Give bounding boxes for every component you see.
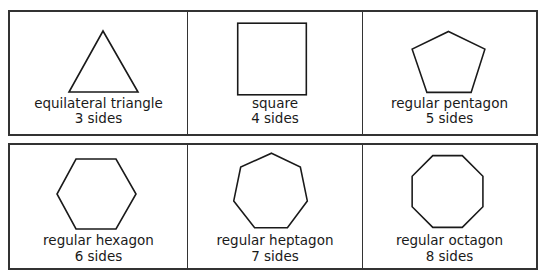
pentagon-shape — [363, 12, 536, 104]
shape-name: square — [188, 96, 362, 111]
shapes-row-2: regular hexagon 6 sides regular heptagon… — [8, 143, 538, 270]
shape-name: equilateral triangle — [10, 96, 187, 111]
shape-name: regular pentagon — [363, 96, 536, 111]
heptagon-shape — [188, 145, 362, 237]
shapes-row-1: equilateral triangle 3 sides square 4 si… — [8, 10, 538, 136]
shape-name: regular hexagon — [10, 233, 187, 248]
shape-sides: 5 sides — [363, 111, 536, 126]
triangle-shape — [10, 12, 187, 104]
cell-heptagon: regular heptagon 7 sides — [187, 145, 362, 268]
square-shape — [188, 12, 362, 104]
cell-triangle: equilateral triangle 3 sides — [10, 12, 187, 134]
octagon-shape — [363, 145, 536, 237]
shape-sides: 3 sides — [10, 111, 187, 126]
shape-name: regular heptagon — [188, 233, 362, 248]
shape-sides: 4 sides — [188, 111, 362, 126]
hexagon-shape — [10, 145, 187, 237]
shape-sides: 8 sides — [363, 249, 536, 264]
shape-sides: 6 sides — [10, 249, 187, 264]
shape-name: regular octagon — [363, 233, 536, 248]
cell-hexagon: regular hexagon 6 sides — [10, 145, 187, 268]
cell-pentagon: regular pentagon 5 sides — [362, 12, 536, 134]
cell-square: square 4 sides — [187, 12, 362, 134]
shape-sides: 7 sides — [188, 249, 362, 264]
cell-octagon: regular octagon 8 sides — [362, 145, 536, 268]
